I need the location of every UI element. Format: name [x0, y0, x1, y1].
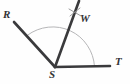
geometry-canvas [0, 0, 130, 84]
ray-sr [14, 22, 55, 67]
point-label-r: R [3, 9, 10, 20]
ray-st [55, 66, 110, 67]
vertex-label-s: S [49, 69, 55, 80]
point-label-w: W [80, 13, 90, 24]
geometry-figure: R W S T [0, 0, 130, 84]
point-label-t: T [115, 56, 122, 67]
